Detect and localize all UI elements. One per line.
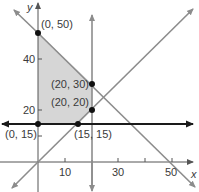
point-20-20	[89, 107, 95, 113]
y-tick-40: 40	[23, 53, 35, 65]
line-y-equals-x-lower	[12, 162, 38, 188]
label-20-30: (20, 30)	[51, 78, 89, 90]
label-15-15: (15, 15)	[74, 128, 112, 140]
point-0-50	[35, 30, 41, 36]
feasible-region-graph: (0, 50) (20, 30) (20, 20) (15, 15) (0, 1…	[0, 0, 199, 192]
label-0-15: (0, 15)	[5, 128, 37, 140]
line-x-plus-y-50	[14, 10, 38, 33]
x-tick-50: 50	[165, 166, 177, 178]
label-20-20: (20, 20)	[51, 96, 89, 108]
point-15-15	[75, 121, 81, 127]
x-tick-30: 30	[112, 166, 124, 178]
label-0-50: (0, 50)	[41, 18, 73, 30]
point-20-30	[89, 81, 95, 87]
x-tick-10: 10	[59, 166, 71, 178]
x-ticks	[65, 158, 172, 162]
point-0-15	[35, 121, 41, 127]
y-tick-20: 20	[23, 104, 35, 116]
y-axis-label: y	[26, 1, 34, 13]
x-axis-label: x	[190, 168, 197, 180]
